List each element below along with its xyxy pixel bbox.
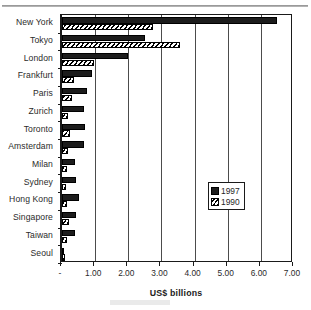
bar-row: [62, 157, 291, 175]
bar-1990: [62, 60, 94, 66]
bar-1990: [62, 77, 74, 83]
legend-label-1997: 1997: [221, 186, 240, 196]
category-label: Hong Kong: [0, 194, 53, 204]
bar-1997: [62, 53, 128, 59]
bar-1997: [62, 106, 84, 112]
bar-1997: [62, 35, 145, 41]
category-label: Milan: [0, 159, 53, 169]
bar-1990: [62, 113, 68, 119]
bar-row: [62, 68, 291, 86]
bar-1990: [62, 184, 66, 190]
bar-1997: [62, 230, 75, 236]
legend-swatch-1997-icon: [211, 187, 219, 195]
category-label: New York: [0, 17, 53, 27]
bar-1990: [62, 166, 67, 172]
bar-1997: [62, 159, 75, 165]
legend-label-1990: 1990: [221, 197, 240, 207]
plot-area: [60, 14, 292, 262]
category-label: Toronto: [0, 124, 53, 134]
bar-row: [62, 121, 291, 139]
bar-1997: [62, 177, 76, 183]
bar-1997: [62, 212, 76, 218]
value-axis-ticks: -1.002.003.004.005.006.007.00: [60, 262, 292, 288]
x-axis-tick: [259, 262, 260, 266]
bar-row: [62, 104, 291, 122]
bar-1990: [62, 201, 67, 207]
bar-1990: [62, 42, 180, 48]
chart-legend: 1997 1990: [208, 182, 245, 210]
bar-row: [62, 15, 291, 33]
bar-1997: [62, 248, 64, 254]
x-axis-tick: [193, 262, 194, 266]
bar-1990: [62, 254, 65, 260]
category-label: Sydney: [0, 177, 53, 187]
bar-1990: [62, 130, 70, 136]
bar-row: [62, 33, 291, 51]
bar-1997: [62, 124, 85, 130]
category-label: Frankfurt: [0, 70, 53, 80]
legend-swatch-1990-icon: [211, 198, 219, 206]
legend-item-1997: 1997: [211, 185, 240, 196]
x-axis-tick-label: 7.00: [272, 268, 311, 278]
category-label: Tokyo: [0, 35, 53, 45]
x-axis-tick: [60, 262, 61, 266]
bar-1997: [62, 194, 79, 200]
bar-chart: New YorkTokyoLondonFrankfurtParisZurichT…: [0, 0, 311, 310]
bar-1997: [62, 141, 84, 147]
bar-row: [62, 50, 291, 68]
bar-1997: [62, 70, 92, 76]
category-label: Seoul: [0, 248, 53, 258]
x-axis-title: US$ billions: [60, 288, 292, 298]
x-axis-tick: [93, 262, 94, 266]
bar-rows: [62, 15, 291, 261]
category-label: Amsterdam: [0, 141, 53, 151]
bar-row: [62, 228, 291, 246]
bar-1997: [62, 17, 277, 23]
x-axis-tick: [126, 262, 127, 266]
bar-1990: [62, 24, 153, 30]
bar-1990: [62, 219, 69, 225]
category-label: London: [0, 53, 53, 63]
x-axis-tick: [226, 262, 227, 266]
bar-1997: [62, 88, 87, 94]
bar-row: [62, 192, 291, 210]
x-axis-tick: [292, 262, 293, 266]
bar-row: [62, 210, 291, 228]
bar-1990: [62, 95, 72, 101]
x-axis-tick: [159, 262, 160, 266]
bar-row: [62, 139, 291, 157]
category-label: Taiwan: [0, 230, 53, 240]
bar-row: [62, 174, 291, 192]
bar-1990: [62, 237, 67, 243]
bar-row: [62, 245, 291, 263]
legend-item-1990: 1990: [211, 196, 240, 207]
category-label: Paris: [0, 88, 53, 98]
category-label: Zurich: [0, 106, 53, 116]
category-label: Singapore: [0, 212, 53, 222]
bar-1990: [62, 148, 68, 154]
bar-row: [62, 86, 291, 104]
